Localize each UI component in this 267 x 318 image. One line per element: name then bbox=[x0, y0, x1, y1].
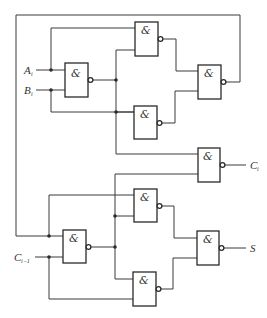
svg-text:&: & bbox=[204, 67, 214, 80]
inversion-bubble-icon bbox=[158, 37, 163, 42]
inversion-bubble-icon bbox=[220, 163, 225, 168]
wire-g9-to-g8 bbox=[160, 258, 197, 289]
svg-text:&: & bbox=[203, 233, 213, 246]
junction-g1-bus bbox=[114, 110, 118, 114]
inversion-bubble-icon bbox=[219, 246, 224, 251]
svg-text:&: & bbox=[203, 150, 213, 163]
wire-cin-to-g9 bbox=[49, 257, 133, 299]
nand-gate-g7: & bbox=[63, 230, 91, 263]
nand-gate-g2: & bbox=[135, 22, 163, 56]
inversion-bubble-icon bbox=[88, 78, 93, 83]
svg-text:B: B bbox=[24, 84, 31, 96]
output-label-carry: C i bbox=[250, 159, 259, 172]
nand-gate-g5-carry: & bbox=[198, 148, 225, 182]
svg-text:S: S bbox=[250, 242, 256, 254]
full-adder-circuit-diagram: & & & & & & & & & A bbox=[0, 0, 267, 318]
input-label-b: B i bbox=[24, 84, 33, 97]
svg-text:&: & bbox=[141, 24, 151, 37]
junction-b bbox=[49, 88, 53, 92]
wire-g2-to-g3 bbox=[162, 39, 198, 71]
junction-g1-out bbox=[114, 78, 118, 82]
svg-text:&: & bbox=[140, 191, 150, 204]
junction-loop bbox=[47, 234, 51, 238]
inversion-bubble-icon bbox=[221, 80, 226, 85]
svg-text:i: i bbox=[31, 91, 33, 97]
nand-gate-g6: & bbox=[134, 189, 162, 222]
svg-text:&: & bbox=[139, 274, 149, 287]
junction-a bbox=[49, 68, 53, 72]
inversion-bubble-icon bbox=[86, 245, 91, 250]
nand-gate-g1: & bbox=[65, 63, 93, 97]
svg-text:&: & bbox=[71, 67, 81, 80]
nand-gate-g3: & bbox=[198, 65, 226, 99]
nand-gate-g4: & bbox=[134, 106, 162, 139]
svg-text:&: & bbox=[140, 108, 150, 121]
wire-a-to-g2 bbox=[51, 28, 135, 70]
junction-g7-out bbox=[113, 245, 117, 249]
wire-g3-out-loop bbox=[16, 15, 240, 236]
inversion-bubble-icon bbox=[156, 287, 161, 292]
svg-text:&: & bbox=[69, 232, 79, 245]
svg-text:i: i bbox=[257, 166, 259, 172]
wire-b-to-g4 bbox=[51, 90, 134, 112]
nand-gate-g8-sum: & bbox=[197, 231, 224, 265]
junction-cin bbox=[47, 255, 51, 259]
output-label-sum: S bbox=[250, 242, 256, 254]
svg-text:i: i bbox=[31, 71, 33, 77]
svg-text:i−1: i−1 bbox=[21, 258, 30, 264]
inversion-bubble-icon bbox=[157, 121, 162, 126]
nand-gate-g9: & bbox=[133, 272, 161, 306]
wire-g6-to-g8 bbox=[161, 206, 197, 238]
input-label-carry-in: C i−1 bbox=[14, 251, 30, 264]
input-label-a: A i bbox=[23, 64, 33, 77]
inversion-bubble-icon bbox=[157, 204, 162, 209]
svg-text:A: A bbox=[23, 64, 31, 76]
junction-g7-bus bbox=[113, 214, 117, 218]
wire-g4-to-g3 bbox=[161, 91, 198, 123]
